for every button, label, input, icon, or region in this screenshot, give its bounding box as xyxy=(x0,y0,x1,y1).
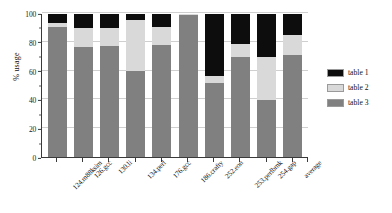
legend-swatch xyxy=(327,99,344,107)
bar-column xyxy=(231,14,250,157)
y-tick-label: 20 xyxy=(0,125,41,134)
y-tick-label: 100 xyxy=(0,10,41,19)
y-tick-label: 80 xyxy=(0,38,41,47)
bar-column xyxy=(152,14,171,157)
legend-label: table 1 xyxy=(348,68,368,77)
legend-item: table 2 xyxy=(327,81,389,94)
x-axis-label: 134.perl xyxy=(145,159,167,181)
bar-segment xyxy=(205,83,224,157)
bar-column xyxy=(179,14,198,157)
bar-segment xyxy=(74,14,93,28)
stacked-bar-chart: 020406080100 % usage 124.m88ksim126.gcc1… xyxy=(0,0,392,213)
bar-column xyxy=(205,14,224,157)
bar-segment xyxy=(283,55,302,157)
legend-item: table 1 xyxy=(327,66,389,79)
y-axis-title: % usage xyxy=(12,37,21,97)
bar-column xyxy=(257,14,276,157)
bar-segment xyxy=(257,14,276,57)
legend-label: table 3 xyxy=(348,98,368,107)
bar-segment xyxy=(100,14,119,28)
bar-segment xyxy=(257,57,276,100)
bar-segment xyxy=(126,71,145,157)
legend-item: table 3 xyxy=(327,96,389,109)
bar-segment xyxy=(231,44,250,57)
bar-segment xyxy=(283,14,302,35)
y-axis: 020406080100 xyxy=(0,14,41,158)
bar-segment xyxy=(205,14,224,76)
bar-segment xyxy=(152,27,171,46)
x-axis-label: 130.li xyxy=(117,159,134,176)
bar-column xyxy=(48,14,67,157)
legend: table 1table 2table 3 xyxy=(327,66,389,111)
y-tick-label: 40 xyxy=(0,96,41,105)
x-axis-label: 252.eon xyxy=(224,159,245,180)
x-axis-label: 176.gcc xyxy=(171,159,192,180)
y-tick-label: 0 xyxy=(0,154,41,163)
legend-label: table 2 xyxy=(348,83,368,92)
x-axis-label: 186.crafty xyxy=(199,159,225,185)
bar-segment xyxy=(179,15,198,157)
gridline xyxy=(42,12,308,13)
bar-segment xyxy=(152,14,171,27)
bar-column xyxy=(74,14,93,157)
bar-segment xyxy=(152,45,171,157)
bar-segment xyxy=(100,28,119,47)
bar-segment xyxy=(100,46,119,157)
bar-segment xyxy=(231,57,250,157)
legend-swatch xyxy=(327,84,344,92)
bar-segment xyxy=(126,20,145,71)
bar-segment xyxy=(48,14,67,23)
bar-column xyxy=(100,14,119,157)
plot-area xyxy=(41,14,308,158)
bar-segment xyxy=(231,14,250,44)
bar-column xyxy=(283,14,302,157)
bar-segment xyxy=(205,76,224,83)
bar-segment xyxy=(74,28,93,47)
bar-column xyxy=(126,14,145,157)
legend-swatch xyxy=(327,69,344,77)
x-axis-label: average xyxy=(302,159,323,180)
bar-segment xyxy=(48,27,67,157)
bar-segment xyxy=(74,47,93,157)
bar-group xyxy=(42,14,308,157)
y-tick-label: 60 xyxy=(0,67,41,76)
bar-segment xyxy=(283,35,302,54)
bar-segment xyxy=(257,100,276,157)
x-axis-labels: 124.m88ksim126.gcc130.li134.perl176.gcc1… xyxy=(41,159,308,213)
